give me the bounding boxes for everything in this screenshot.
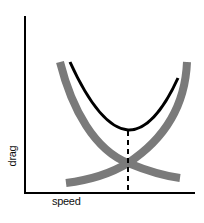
drag-vs-speed-chart (0, 0, 204, 223)
y-axis-label: drag (6, 146, 18, 167)
x-axis-label: speed (52, 195, 80, 207)
